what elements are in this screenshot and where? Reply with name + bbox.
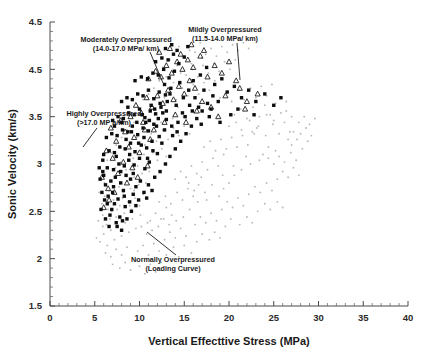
data-point (105, 252, 107, 254)
data-point (150, 140, 153, 143)
data-point (163, 218, 165, 220)
data-point (236, 107, 239, 110)
data-point (113, 239, 115, 241)
data-point (185, 176, 187, 178)
data-point (230, 218, 232, 220)
data-point (158, 102, 161, 105)
data-point (182, 96, 185, 99)
data-point (241, 169, 243, 171)
data-point (150, 133, 152, 135)
data-point (225, 148, 227, 150)
x-tick-label: 25 (268, 312, 279, 323)
data-point (101, 203, 103, 205)
data-point (194, 51, 196, 53)
data-point (203, 146, 205, 148)
data-point (236, 146, 238, 148)
data-point (132, 163, 135, 166)
data-point (221, 208, 223, 210)
data-point (282, 207, 284, 209)
annotation-text: Mildly Overpressured(11.5-14.0 MPa/ km) (188, 25, 262, 43)
data-point (140, 75, 143, 78)
data-point (271, 190, 273, 192)
data-point (256, 127, 258, 129)
sonic-velocity-scatter-chart: 05101520253035401.522.533.54.54.5 Modera… (0, 0, 428, 357)
data-point (272, 104, 275, 107)
data-point (195, 117, 198, 120)
data-point (173, 82, 175, 84)
data-point (200, 123, 203, 126)
data-point (102, 174, 105, 177)
data-point (143, 154, 145, 156)
data-point (207, 169, 209, 171)
data-point (119, 170, 122, 173)
data-point (147, 183, 150, 186)
data-point (301, 148, 303, 150)
data-point (165, 207, 167, 209)
data-point (182, 216, 184, 218)
data-point (183, 244, 185, 246)
data-point (190, 252, 192, 254)
data-point (247, 144, 249, 146)
data-point (137, 141, 140, 144)
data-point (121, 128, 124, 131)
data-point (104, 217, 107, 220)
data-point (260, 85, 262, 87)
data-point (200, 109, 203, 112)
data-point (111, 191, 114, 194)
data-point (209, 140, 211, 142)
data-point (183, 125, 185, 127)
data-point (218, 121, 221, 124)
y-axis-title: Sonic Velocity (km/s) (6, 109, 18, 219)
data-point (125, 96, 128, 99)
data-point (153, 243, 155, 245)
data-point (175, 130, 178, 133)
data-point (144, 273, 146, 275)
data-point (174, 147, 177, 150)
data-point (153, 107, 156, 110)
data-point (162, 68, 165, 71)
data-point (142, 244, 144, 246)
data-point (130, 130, 133, 133)
data-point (151, 149, 154, 152)
data-point (96, 237, 98, 239)
data-point (142, 191, 145, 194)
data-point (158, 201, 160, 203)
data-point (99, 208, 102, 211)
data-point (146, 157, 149, 160)
data-point (208, 89, 210, 91)
data-point (160, 141, 163, 144)
data-point (168, 224, 170, 226)
data-point (219, 97, 221, 99)
data-point (126, 246, 128, 248)
data-point (222, 174, 224, 176)
data-point (249, 120, 251, 122)
data-point (284, 161, 286, 163)
data-point (210, 48, 212, 50)
y-tick-label: 3.5 (29, 111, 43, 122)
data-point (168, 92, 171, 95)
data-point (291, 144, 293, 146)
data-point (124, 174, 127, 177)
data-point (212, 157, 214, 159)
data-point (129, 141, 132, 144)
data-point (128, 153, 131, 156)
data-point (131, 218, 133, 220)
data-point (192, 195, 194, 197)
data-point (262, 154, 264, 156)
data-point (132, 172, 135, 175)
data-point (278, 155, 280, 157)
data-point (292, 167, 294, 169)
data-point (305, 127, 307, 129)
data-point (161, 111, 164, 114)
data-point (175, 49, 178, 52)
data-point (221, 46, 223, 48)
data-point (113, 202, 116, 205)
data-point (269, 208, 271, 210)
data-point (157, 90, 160, 93)
data-point (108, 213, 111, 216)
data-point (148, 160, 151, 163)
data-point (193, 96, 196, 99)
data-point (298, 174, 300, 176)
data-point (130, 188, 132, 190)
data-point (119, 181, 122, 184)
